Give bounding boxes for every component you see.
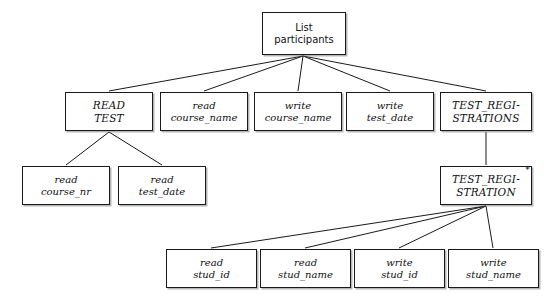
iteration-asterisk-icon: * — [525, 166, 530, 175]
edge — [305, 206, 486, 248]
node-write_test_date[interactable]: writetest_date — [346, 92, 434, 131]
edge — [109, 132, 162, 165]
node-label-line1: write — [480, 257, 506, 269]
node-label-line2: test_date — [367, 112, 413, 124]
edge — [298, 56, 303, 91]
node-write_course_name[interactable]: writecourse_name — [254, 92, 342, 131]
node-label-line1: read — [192, 100, 215, 112]
node-label-line2: stud_name — [278, 269, 333, 281]
edge — [399, 206, 486, 248]
node-label-line1: read — [150, 174, 173, 186]
node-read_stud_name[interactable]: readstud_name — [260, 249, 351, 288]
node-test_registration[interactable]: TEST_REGI-STRATION* — [440, 166, 532, 205]
task-decomposition-diagram: ListparticipantsREADTESTreadcourse_namew… — [0, 0, 544, 301]
node-label-line2: course_name — [265, 112, 332, 124]
node-read_test_date[interactable]: readtest_date — [118, 166, 206, 205]
node-label-line2: participants — [274, 34, 334, 46]
node-label-line2: course_name — [171, 112, 238, 124]
node-root[interactable]: Listparticipants — [262, 12, 346, 55]
node-label-line1: read — [200, 257, 223, 269]
node-label-line1: TEST_REGI- — [452, 99, 520, 111]
node-label-line1: write — [386, 257, 412, 269]
edge — [109, 56, 303, 91]
edge — [204, 56, 303, 91]
edge — [211, 206, 486, 248]
node-label-line1: read — [294, 257, 317, 269]
node-label-line1: write — [285, 100, 311, 112]
node-label-line1: write — [377, 100, 403, 112]
node-label-line2: stud_id — [193, 269, 230, 281]
node-label-line2: STRATIONS — [452, 112, 519, 124]
node-label-line1: READ — [93, 99, 125, 111]
node-write_stud_name[interactable]: writestud_name — [448, 249, 539, 288]
edge — [486, 206, 493, 248]
node-label-line1: List — [295, 22, 312, 34]
node-label-line2: stud_name — [466, 269, 521, 281]
node-label-line2: stud_id — [381, 269, 418, 281]
edge — [303, 56, 486, 91]
edge — [66, 132, 109, 165]
node-label-line2: course_nr — [41, 186, 91, 198]
node-label-line2: test_date — [139, 186, 185, 198]
node-label-line2: STRATION — [456, 186, 516, 198]
node-write_stud_id[interactable]: writestud_id — [354, 249, 445, 288]
node-read_test[interactable]: READTEST — [65, 92, 153, 131]
node-test_registrations[interactable]: TEST_REGI-STRATIONS — [440, 92, 532, 131]
node-read_course_nr[interactable]: readcourse_nr — [22, 166, 110, 205]
edge — [303, 56, 390, 91]
node-label-line2: TEST — [94, 112, 124, 124]
node-label-line1: read — [54, 174, 77, 186]
node-label-line1: TEST_REGI- — [452, 173, 520, 185]
node-read_stud_id[interactable]: readstud_id — [166, 249, 257, 288]
node-read_course_name[interactable]: readcourse_name — [160, 92, 248, 131]
